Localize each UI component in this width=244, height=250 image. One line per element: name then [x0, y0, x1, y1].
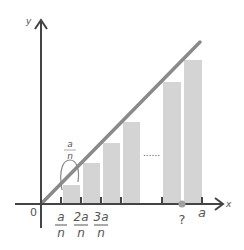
bar-3 [103, 143, 120, 204]
unknown-point-dot [179, 201, 186, 208]
riemann-sum-diagram: ...... y x 0 a n a n 2a n 3a n ? a [0, 0, 244, 250]
svg-text:n: n [77, 226, 85, 240]
bar-6 [184, 60, 202, 204]
tick-label-2a-n: 2a n [74, 210, 89, 240]
bars [63, 60, 202, 204]
svg-text:3a: 3a [94, 210, 109, 224]
tick-label-3a-n: 3a n [94, 210, 109, 240]
svg-text:n: n [67, 151, 73, 161]
tick-label-a-n: a n [55, 210, 67, 240]
svg-text:n: n [97, 226, 105, 240]
end-label-a: a [198, 205, 206, 220]
bar-1 [63, 185, 80, 204]
svg-text:a: a [67, 139, 73, 149]
bar-4 [123, 122, 140, 204]
svg-text:a: a [57, 210, 64, 224]
bar-5 [163, 82, 181, 204]
bar-2 [83, 163, 100, 204]
origin-label: 0 [30, 206, 37, 219]
y-axis-label: y [25, 16, 32, 26]
svg-text:n: n [57, 226, 65, 240]
width-annotation: a n [64, 139, 76, 161]
x-axis-label: x [225, 199, 232, 209]
ellipsis: ...... [143, 148, 160, 158]
unknown-label: ? [179, 212, 186, 227]
svg-text:2a: 2a [74, 210, 89, 224]
